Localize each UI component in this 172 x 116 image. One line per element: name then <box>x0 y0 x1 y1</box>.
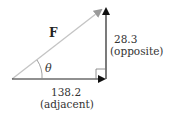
angle-label-theta: θ <box>45 63 52 75</box>
adjacent-caption: (adjacent) <box>40 98 94 110</box>
right-angle-marker <box>96 69 106 79</box>
vector-label-f: F <box>49 27 58 39</box>
adjacent-value: 138.2 <box>51 86 81 98</box>
hypotenuse-vector-f <box>12 10 101 79</box>
opposite-value: 28.3 <box>114 33 137 45</box>
opposite-caption: (opposite) <box>110 45 163 57</box>
angle-arc <box>37 60 42 79</box>
